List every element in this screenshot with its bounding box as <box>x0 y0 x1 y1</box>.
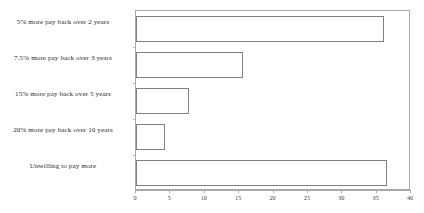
x-axis-tick <box>273 190 274 193</box>
category-label: 5% more pay back over 2 years <box>0 18 126 28</box>
x-axis-tick-label: 40 <box>407 194 413 201</box>
bar <box>136 88 189 114</box>
category-label: Unwilling to pay more <box>0 162 126 172</box>
plot-area <box>135 10 410 190</box>
x-axis-tick <box>238 190 239 193</box>
x-axis-tick <box>410 190 411 193</box>
bar <box>136 124 165 150</box>
bar-chart: 5% more pay back over 2 years 7.5% more … <box>0 0 424 213</box>
x-axis-tick-label: 0 <box>133 194 136 201</box>
y-axis-tick <box>133 155 136 156</box>
category-axis-labels: 5% more pay back over 2 years 7.5% more … <box>0 10 131 190</box>
bar <box>136 52 243 78</box>
x-axis-tick <box>169 190 170 193</box>
x-axis-tick-label: 30 <box>338 194 344 201</box>
category-label: 20% more pay back over 10 years <box>0 126 126 136</box>
x-axis-tick-label: 20 <box>269 194 275 201</box>
x-axis-tick <box>135 190 136 193</box>
y-axis-tick <box>133 119 136 120</box>
category-label: 15% more pay back over 5 years <box>0 90 126 100</box>
x-axis-tick-label: 25 <box>304 194 310 201</box>
x-axis: 0510152025303540 <box>135 190 410 213</box>
category-label: 7.5% more pay back over 3 years <box>0 54 126 64</box>
bar <box>136 160 387 186</box>
x-axis-tick <box>307 190 308 193</box>
x-axis-tick <box>376 190 377 193</box>
x-axis-tick <box>204 190 205 193</box>
y-axis-tick <box>133 47 136 48</box>
x-axis-tick-label: 10 <box>201 194 207 201</box>
x-axis-tick-label: 5 <box>168 194 171 201</box>
bars-layer <box>136 11 409 189</box>
x-axis-tick-label: 15 <box>235 194 241 201</box>
bar <box>136 16 384 42</box>
x-axis-tick-label: 35 <box>373 194 379 201</box>
x-axis-tick <box>341 190 342 193</box>
y-axis-tick <box>133 83 136 84</box>
